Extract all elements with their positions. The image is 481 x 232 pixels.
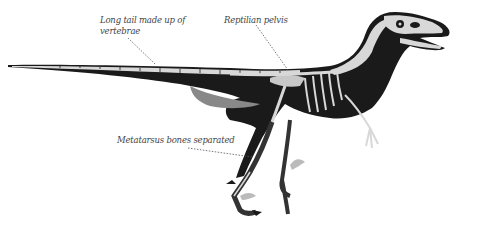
label-tail-line2: vertebrae [100, 26, 140, 36]
label-tail-line1: Long tail made up of [100, 15, 185, 25]
body-silhouette [8, 12, 450, 178]
far-foot-claw [290, 159, 305, 170]
label-reptilian-pelvis: Reptilian pelvis [224, 15, 288, 26]
far-leg [281, 120, 290, 214]
sickle-claw [240, 193, 256, 200]
toe-claw [226, 180, 236, 184]
nasal-opening [410, 22, 420, 28]
label-metatarsus: Metatarsus bones separated [117, 135, 235, 146]
dinosaur-skeleton-illustration [0, 0, 481, 232]
label-long-tail: Long tail made up of vertebrae [100, 15, 185, 37]
